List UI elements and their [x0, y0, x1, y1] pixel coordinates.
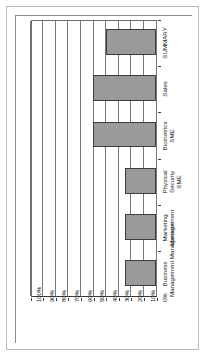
gridline	[80, 21, 81, 296]
bar	[93, 122, 156, 148]
category-label: BiometricsSME	[161, 112, 175, 158]
gridline	[93, 21, 94, 296]
value-tick-label: 50%	[97, 262, 107, 302]
value-tick-mark	[131, 298, 132, 301]
value-tick-mark	[119, 298, 120, 301]
bar	[125, 214, 157, 240]
value-tick-mark	[81, 298, 82, 301]
category-label-line: Physical	[161, 159, 168, 205]
gridline	[42, 21, 43, 296]
category-label-line: Sales	[161, 66, 168, 112]
gridline	[118, 21, 119, 296]
category-label-line: SME	[168, 112, 175, 158]
gridline	[67, 21, 68, 296]
category-label: SUMMARY	[161, 20, 168, 66]
value-tick-label: 40%	[110, 262, 120, 302]
value-tick-label: 70%	[72, 262, 82, 302]
category-tick-mark	[158, 112, 161, 113]
value-tick-mark	[94, 298, 95, 301]
category-label-line: Management Management	[168, 251, 175, 297]
category-label: BusinessManagement Management	[161, 251, 175, 297]
category-tick-mark	[158, 20, 161, 21]
value-tick-mark	[157, 298, 158, 301]
bar	[93, 75, 156, 101]
gridline	[105, 21, 106, 296]
category-tick-mark	[158, 66, 161, 67]
bar	[106, 29, 156, 55]
category-label-line: Marketing	[161, 205, 168, 251]
chart-page: 100%90%80%70%60%50%40%30%20%10%0% Busine…	[0, 0, 207, 358]
category-label: MarketingManagement	[161, 205, 175, 251]
value-tick-label: 30%	[122, 262, 132, 302]
gridline	[30, 21, 31, 296]
category-label-line: Management	[168, 205, 175, 251]
value-tick-label: 10%	[148, 262, 158, 302]
plot-area	[31, 20, 157, 297]
gridline	[130, 21, 131, 296]
gridline	[143, 21, 144, 296]
value-tick-label: 80%	[59, 262, 69, 302]
category-label-line: Biometrics	[161, 112, 168, 158]
category-label: Sales	[161, 66, 168, 112]
value-tick-mark	[144, 298, 145, 301]
category-label-line: Security	[168, 159, 175, 205]
value-tick-label: 100%	[34, 262, 44, 302]
value-tick-mark	[43, 298, 44, 301]
value-tick-mark	[68, 298, 69, 301]
value-tick-mark	[56, 298, 57, 301]
category-label-line: SME	[175, 159, 182, 205]
value-tick-label: 60%	[85, 262, 95, 302]
value-tick-mark	[31, 298, 32, 301]
value-tick-mark	[106, 298, 107, 301]
bar	[125, 168, 157, 194]
category-label-line: Business	[161, 251, 168, 297]
category-label-line: SUMMARY	[161, 20, 168, 66]
gridline	[55, 21, 56, 296]
value-tick-label: 20%	[135, 262, 145, 302]
value-tick-label: 90%	[47, 262, 57, 302]
gridline	[156, 21, 157, 296]
category-label: PhysicalSecuritySME	[161, 159, 183, 205]
